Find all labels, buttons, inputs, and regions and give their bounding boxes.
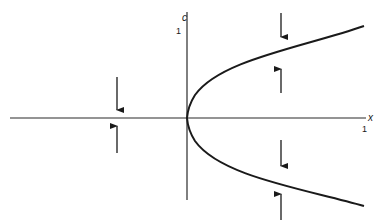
- parabola-curve: [187, 26, 364, 206]
- vertical-axis-label: c: [182, 12, 187, 23]
- horizontal-axis-tick-label: 1: [362, 124, 367, 134]
- horizontal-axis-label: x: [367, 112, 374, 123]
- vertical-axis-tick-label: 1: [176, 26, 181, 36]
- bifurcation-diagram: c 1 x 1: [0, 0, 384, 224]
